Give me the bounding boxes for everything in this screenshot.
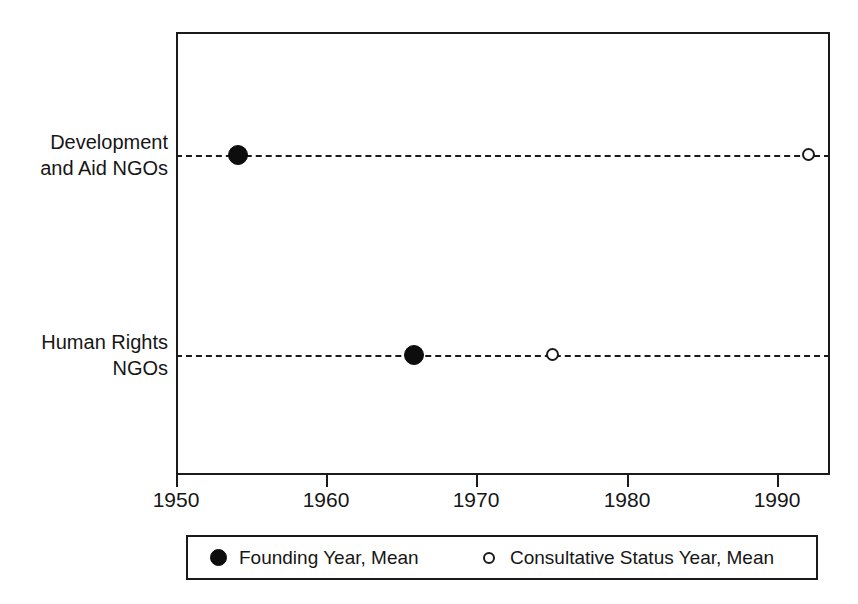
x-axis-tick-1990 bbox=[777, 475, 779, 487]
data-point-founding-year-development-and-aid-ngos bbox=[228, 145, 248, 165]
x-axis-tick-1950 bbox=[176, 475, 178, 487]
category-guide-line-1 bbox=[176, 355, 830, 357]
open-circle-icon bbox=[483, 552, 495, 564]
x-axis-tick-label-1970: 1970 bbox=[416, 488, 536, 512]
chart-page: Development and Aid NGOs Human Rights NG… bbox=[0, 0, 858, 604]
y-axis-label-development-and-aid-ngos: Development and Aid NGOs bbox=[0, 129, 168, 181]
data-point-consultative-status-year-development-and-aid-ngos bbox=[802, 148, 815, 161]
legend-entry-consultative-status-year: Consultative Status Year, Mean bbox=[480, 537, 774, 578]
category-guide-line-0 bbox=[176, 155, 830, 157]
chart-legend: Founding Year, Mean Consultative Status … bbox=[186, 535, 818, 580]
x-axis-tick-1960 bbox=[326, 475, 328, 487]
x-axis-tick-label-1980: 1980 bbox=[567, 488, 687, 512]
x-axis-tick-label-1950: 1950 bbox=[116, 488, 236, 512]
legend-entry-founding-year: Founding Year, Mean bbox=[210, 537, 419, 578]
y-axis-label-human-rights-ngos: Human Rights NGOs bbox=[0, 329, 168, 381]
x-axis-tick-label-1990: 1990 bbox=[717, 488, 837, 512]
plot-area bbox=[176, 32, 830, 475]
x-axis-tick-label-1960: 1960 bbox=[266, 488, 386, 512]
filled-circle-icon bbox=[210, 549, 227, 566]
x-axis-tick-1970 bbox=[476, 475, 478, 487]
data-point-consultative-status-year-human-rights-ngos bbox=[546, 348, 559, 361]
legend-label-founding-year: Founding Year, Mean bbox=[239, 547, 419, 569]
x-axis-tick-1980 bbox=[627, 475, 629, 487]
legend-label-consultative-status-year: Consultative Status Year, Mean bbox=[510, 547, 774, 569]
data-point-founding-year-human-rights-ngos bbox=[404, 345, 424, 365]
